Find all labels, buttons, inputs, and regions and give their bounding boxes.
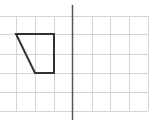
grid-lines: [0, 16, 149, 112]
grid-diagram: [0, 0, 154, 129]
